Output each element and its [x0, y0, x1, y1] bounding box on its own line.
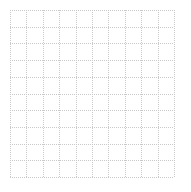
grid-line-horizontal — [10, 177, 174, 178]
grid-line-vertical — [108, 10, 109, 177]
grid-plot-area — [10, 10, 174, 177]
grid-line-vertical — [158, 10, 159, 177]
screenshot-canvas — [0, 0, 191, 192]
grid-line-vertical — [125, 10, 126, 177]
grid-line-vertical — [10, 10, 11, 177]
grid-line-vertical — [76, 10, 77, 177]
grid-line-vertical — [141, 10, 142, 177]
grid-line-vertical — [26, 10, 27, 177]
grid-line-vertical — [43, 10, 44, 177]
grid-line-vertical — [59, 10, 60, 177]
grid-line-vertical — [174, 10, 175, 177]
grid-line-vertical — [92, 10, 93, 177]
